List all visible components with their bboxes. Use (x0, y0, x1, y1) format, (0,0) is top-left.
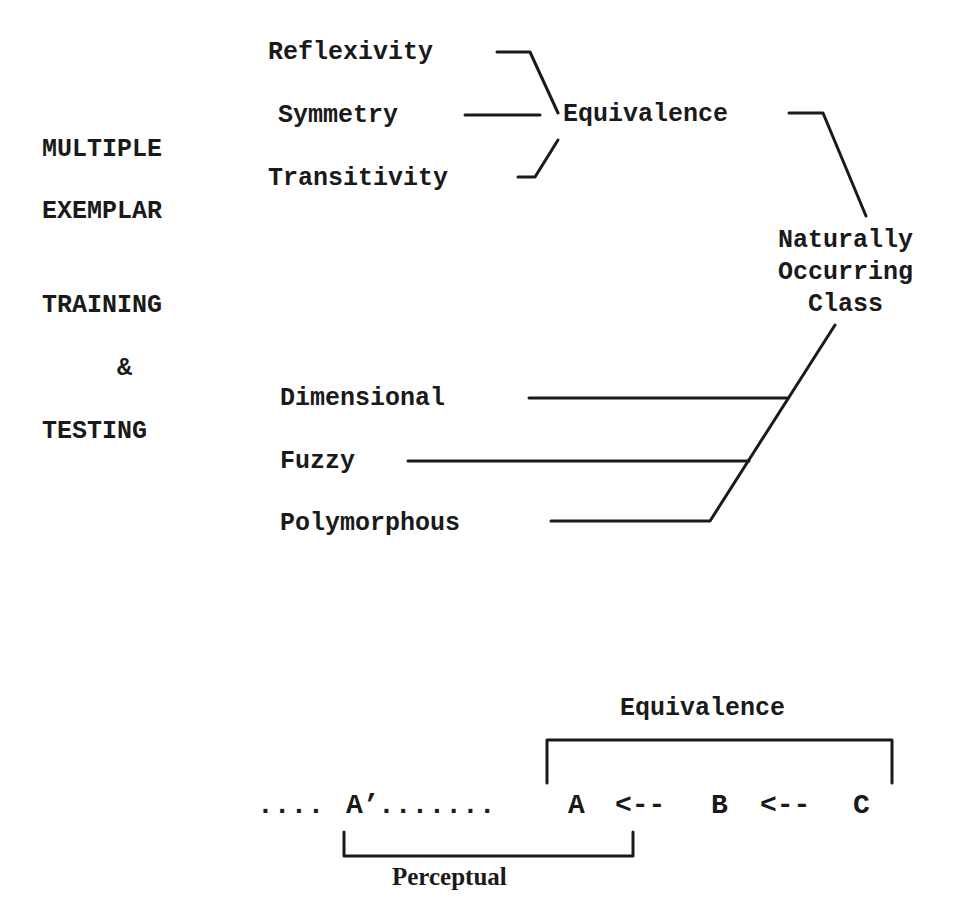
reflexivity-connector (497, 52, 558, 113)
left-label-training: TRAINING (42, 293, 162, 318)
class-node-line-2: Occurring (748, 260, 943, 285)
stimulus-b: B (711, 792, 728, 820)
stimulus-a-prime: A’ (346, 792, 380, 820)
left-label-multiple: MULTIPLE (42, 137, 162, 162)
class-spine-connector (551, 325, 835, 521)
property-transitivity: Transitivity (268, 166, 448, 191)
left-label-exemplar: EXEMPLAR (42, 199, 162, 224)
left-label-ampersand: & (117, 356, 132, 381)
stimulus-a: A (568, 792, 585, 820)
equivalence-node: Equivalence (563, 102, 728, 127)
class-node-line-1: Naturally (748, 228, 943, 253)
stimulus-c: C (853, 792, 870, 820)
equivalence-bracket (547, 740, 892, 783)
class-type-dimensional: Dimensional (280, 386, 445, 411)
class-node-line-3: Class (748, 292, 943, 317)
diagram-canvas: MULTIPLE EXEMPLAR TRAINING & TESTING Ref… (0, 0, 965, 915)
transitivity-connector (518, 140, 558, 177)
leading-dots: .... (257, 792, 324, 820)
arrow-b-to-a: <-- (615, 792, 665, 820)
equivalence-bracket-label: Equivalence (620, 696, 785, 721)
left-label-testing: TESTING (42, 419, 147, 444)
perceptual-bracket (344, 832, 633, 856)
property-reflexivity: Reflexivity (268, 40, 433, 65)
middle-dots: ....... (378, 792, 496, 820)
equivalence-to-class-connector (789, 113, 866, 216)
class-type-fuzzy: Fuzzy (280, 449, 355, 474)
perceptual-bracket-label: Perceptual (392, 864, 507, 889)
property-symmetry: Symmetry (278, 103, 398, 128)
arrow-c-to-b: <-- (760, 792, 810, 820)
class-type-polymorphous: Polymorphous (280, 511, 460, 536)
